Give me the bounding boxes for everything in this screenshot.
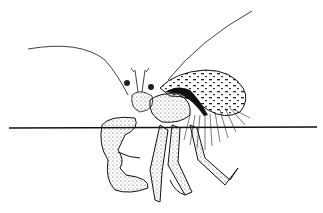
walking-leg-1 bbox=[150, 125, 168, 202]
head bbox=[132, 92, 153, 112]
hermit-crab-illustration bbox=[0, 0, 323, 213]
walking-leg-2 bbox=[168, 125, 192, 195]
right-eye bbox=[148, 84, 154, 90]
right-antenna bbox=[168, 11, 252, 80]
crab-drawing bbox=[0, 0, 323, 213]
walking-leg-3 bbox=[190, 125, 238, 185]
carapace bbox=[150, 94, 191, 123]
left-antenna bbox=[28, 46, 128, 95]
left-eye bbox=[124, 80, 130, 86]
antennules bbox=[131, 68, 149, 92]
